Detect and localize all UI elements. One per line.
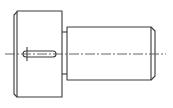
drawing-canvas — [0, 0, 173, 108]
screw-chamfer — [151, 27, 155, 80]
screw-drawing — [0, 0, 173, 108]
screw-neck — [62, 32, 67, 74]
screw-shaft — [67, 27, 151, 80]
